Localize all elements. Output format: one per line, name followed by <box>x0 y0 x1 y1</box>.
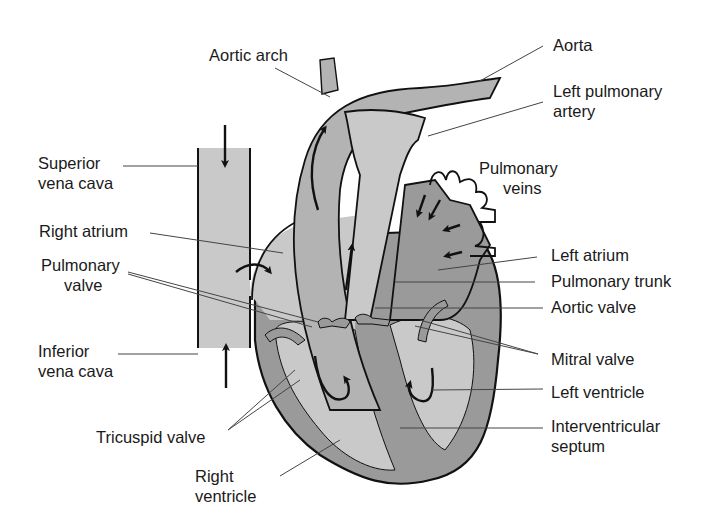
label-mitral-valve: Mitral valve <box>551 350 634 369</box>
label-aorta: Aorta <box>553 36 592 55</box>
label-inferior-vena-cava-line2: vena cava <box>38 362 113 381</box>
label-aortic-arch: Aortic arch <box>209 46 288 65</box>
label-tricuspid-valve: Tricuspid valve <box>96 428 205 447</box>
label-pulmonary-veins-line1: Pulmonary <box>479 159 558 178</box>
label-aortic-valve: Aortic valve <box>551 298 636 317</box>
label-superior-vena-cava-line1: Superior <box>38 154 100 173</box>
label-pulmonary-valve-line2: valve <box>64 276 103 295</box>
label-right-atrium: Right atrium <box>39 222 128 241</box>
label-inferior-vena-cava-line1: Inferior <box>38 342 89 361</box>
vena-cava <box>198 148 250 348</box>
label-pulmonary-veins-line2: veins <box>503 179 542 198</box>
label-pulmonary-valve-line1: Pulmonary <box>41 256 120 275</box>
label-left-ventricle: Left ventricle <box>551 383 645 402</box>
label-interventricular-septum-line2: septum <box>551 437 605 456</box>
label-right-ventricle-line1: Right <box>195 467 234 486</box>
label-right-ventricle-line2: ventricle <box>195 487 256 506</box>
label-pulmonary-trunk: Pulmonary trunk <box>551 272 671 291</box>
label-superior-vena-cava-line2: vena cava <box>38 174 113 193</box>
label-left-pulmonary-artery-line1: Left pulmonary <box>553 82 662 101</box>
label-interventricular-septum-line1: Interventricular <box>551 417 660 436</box>
label-left-atrium: Left atrium <box>551 246 629 265</box>
label-left-pulmonary-artery-line2: artery <box>553 102 595 121</box>
heart-diagram: Aortic arch Aorta Left pulmonary artery … <box>0 0 701 529</box>
